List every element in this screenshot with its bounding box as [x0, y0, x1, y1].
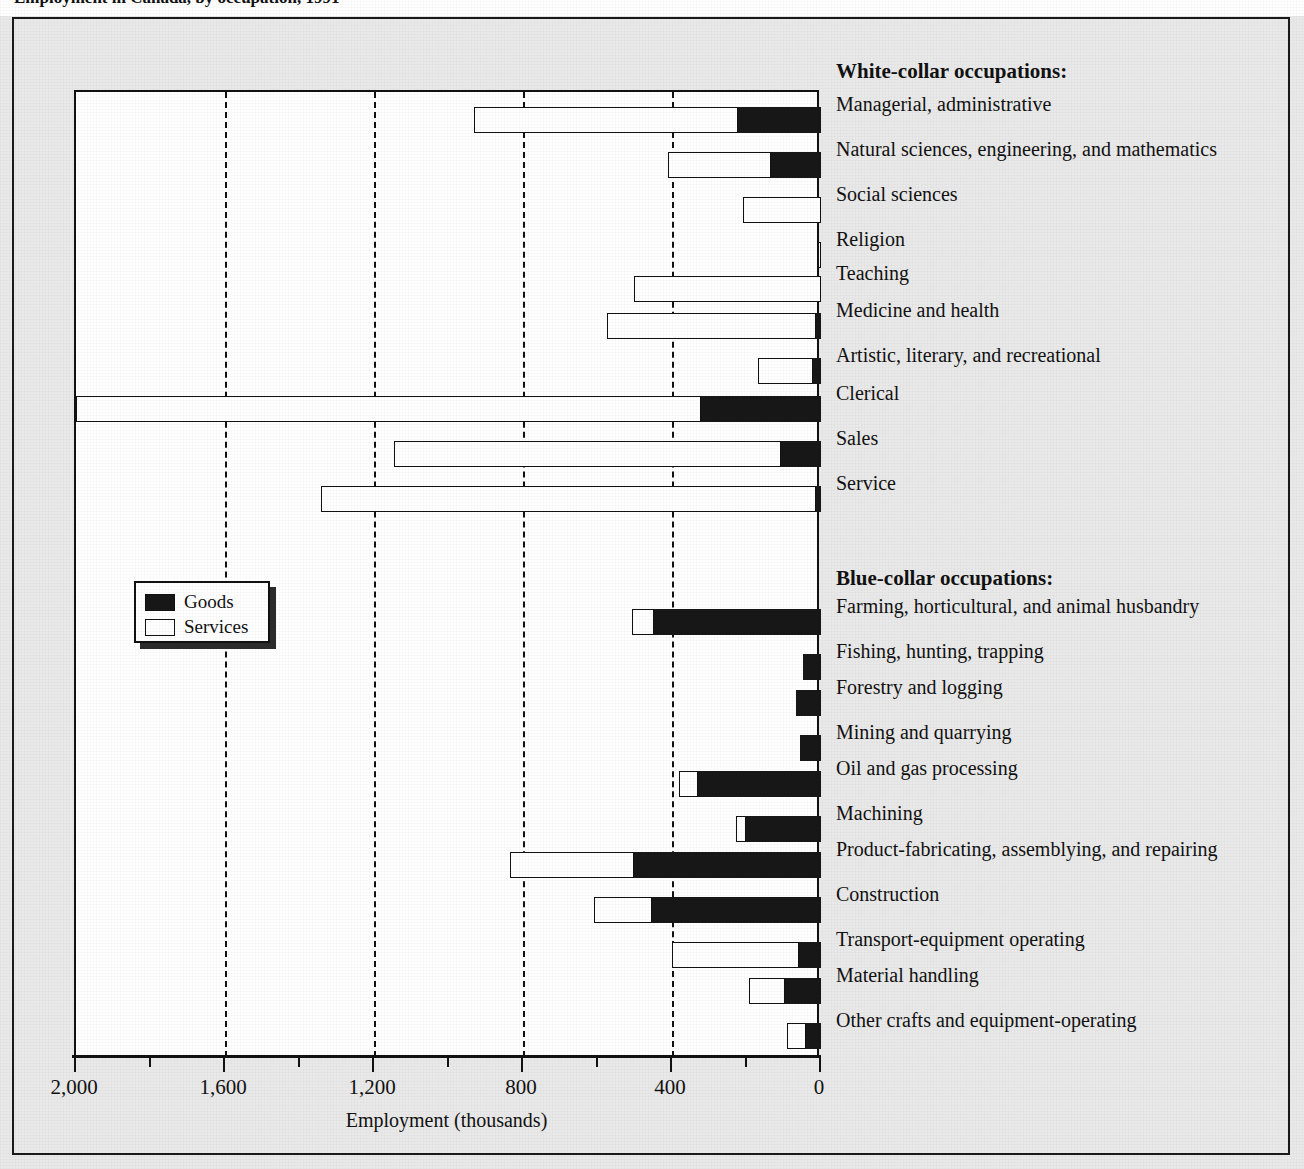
category-label-13: Mining and quarrying [836, 722, 1012, 742]
x-tick-label-2000: 2,000 [50, 1075, 97, 1100]
bar-segment-services [510, 852, 634, 878]
bar-segment-goods [746, 816, 821, 842]
bar-segment-goods [771, 152, 821, 178]
group-heading-blue-collar: Blue-collar occupations: [836, 568, 1053, 589]
bar-segment-goods [800, 735, 821, 761]
category-label-2: Social sciences [836, 184, 958, 204]
x-tick-800 [521, 1055, 523, 1072]
figure-frame: 2,0001,6001,2008004000 Employment (thous… [12, 17, 1290, 1155]
x-tick-400 [670, 1055, 672, 1072]
bar-segment-services [672, 942, 799, 968]
bar-segment-services [743, 197, 821, 223]
x-tick-1600 [223, 1055, 225, 1072]
bar-row[interactable] [76, 197, 821, 223]
x-minor-tick-1400 [298, 1055, 300, 1067]
bar-segment-services [394, 441, 781, 467]
category-label-6: Artistic, literary, and recreational [836, 345, 1101, 365]
category-label-8: Sales [836, 428, 878, 448]
bar-segment-services [679, 771, 698, 797]
bar-row[interactable] [76, 242, 821, 268]
clipped-caption-strip: Employment in Canada, by occupation, 199… [0, 0, 1304, 16]
bar-row[interactable] [76, 152, 821, 178]
bar-segment-services [749, 978, 785, 1004]
x-tick-label-0: 0 [814, 1075, 825, 1100]
bar-row[interactable] [76, 441, 821, 467]
figure-page: Employment in Canada, by occupation, 199… [0, 0, 1304, 1169]
legend-item-goods[interactable]: Goods [145, 591, 234, 613]
legend-box: Goods Services [134, 581, 270, 643]
x-minor-tick-1800 [149, 1055, 151, 1067]
bar-segment-services [632, 609, 654, 635]
category-label-19: Material handling [836, 965, 979, 985]
bar-row[interactable] [76, 654, 821, 680]
bar-row[interactable] [76, 771, 821, 797]
x-tick-label-400: 400 [654, 1075, 686, 1100]
bar-segment-services [594, 897, 652, 923]
bar-segment-services [787, 1023, 806, 1049]
bar-segment-services [818, 242, 821, 268]
x-tick-0 [819, 1055, 821, 1072]
bar-segment-goods [652, 897, 821, 923]
bar-row[interactable] [76, 978, 821, 1004]
bar-row[interactable] [76, 852, 821, 878]
category-label-11: Fishing, hunting, trapping [836, 641, 1044, 661]
category-label-17: Construction [836, 884, 939, 904]
bar-segment-services [607, 313, 816, 339]
x-minor-tick-1000 [447, 1055, 449, 1067]
bar-segment-goods [803, 654, 821, 680]
x-tick-1200 [372, 1055, 374, 1072]
category-label-16: Product-fabricating, assemblying, and re… [836, 839, 1218, 859]
bar-segment-goods [634, 852, 821, 878]
category-label-18: Transport-equipment operating [836, 929, 1085, 949]
bar-segment-goods [701, 396, 821, 422]
bar-segment-goods [799, 942, 821, 968]
bar-segment-services [668, 152, 771, 178]
bar-segment-services [321, 486, 816, 512]
category-label-0: Managerial, administrative [836, 94, 1051, 114]
bar-row[interactable] [76, 735, 821, 761]
bar-segment-goods [654, 609, 821, 635]
legend-swatch-services-icon [145, 619, 175, 636]
bar-segment-goods [698, 771, 821, 797]
bar-segment-goods [785, 978, 821, 1004]
bar-row[interactable] [76, 486, 821, 512]
legend-label-services: Services [184, 616, 248, 638]
bar-segment-goods [816, 486, 821, 512]
category-label-5: Medicine and health [836, 300, 999, 320]
bar-row[interactable] [76, 107, 821, 133]
bar-segment-goods [816, 313, 821, 339]
plot-area [74, 90, 819, 1057]
legend-item-services[interactable]: Services [145, 616, 248, 638]
group-heading-white-collar: White-collar occupations: [836, 61, 1067, 82]
bar-row[interactable] [76, 396, 821, 422]
category-label-4: Teaching [836, 263, 909, 283]
bar-row[interactable] [76, 358, 821, 384]
bar-row[interactable] [76, 690, 821, 716]
legend-label-goods: Goods [184, 591, 234, 613]
category-label-1: Natural sciences, engineering, and mathe… [836, 139, 1217, 159]
bar-segment-services [634, 276, 821, 302]
category-label-9: Service [836, 473, 896, 493]
bar-segment-goods [796, 690, 821, 716]
bar-segment-services [474, 107, 738, 133]
bar-segment-goods [781, 441, 821, 467]
legend-swatch-goods-icon [145, 594, 175, 611]
bar-row[interactable] [76, 276, 821, 302]
bar-row[interactable] [76, 942, 821, 968]
x-tick-label-800: 800 [505, 1075, 537, 1100]
category-label-7: Clerical [836, 383, 899, 403]
bar-row[interactable] [76, 1023, 821, 1049]
x-tick-2000 [74, 1055, 76, 1072]
category-label-10: Farming, horticultural, and animal husba… [836, 596, 1199, 616]
legend[interactable]: Goods Services [134, 581, 270, 643]
bar-row[interactable] [76, 816, 821, 842]
x-tick-label-1600: 1,600 [199, 1075, 246, 1100]
bar-segment-services [76, 396, 701, 422]
bar-segment-services [758, 358, 813, 384]
bar-segment-services [736, 816, 746, 842]
x-minor-tick-200 [745, 1055, 747, 1067]
bar-row[interactable] [76, 313, 821, 339]
category-label-20: Other crafts and equipment-operating [836, 1010, 1136, 1030]
bar-row[interactable] [76, 897, 821, 923]
x-axis-title: Employment (thousands) [74, 1109, 819, 1132]
